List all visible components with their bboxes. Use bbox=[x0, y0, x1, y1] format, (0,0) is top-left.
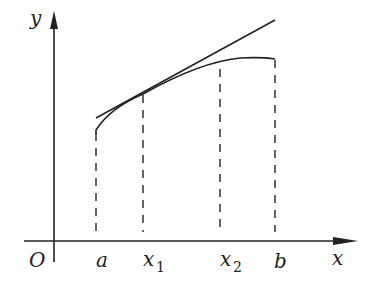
x-axis-label: x bbox=[332, 246, 343, 270]
origin-label: O bbox=[29, 248, 45, 272]
y-axis-arrow-icon bbox=[50, 11, 58, 29]
tick-label-x1-subscript: 1 bbox=[156, 259, 165, 275]
tick-label-a: a bbox=[96, 248, 108, 272]
x-axis-arrow-icon bbox=[333, 237, 358, 245]
tangent-line bbox=[96, 20, 275, 118]
tick-label-x2: x bbox=[220, 247, 231, 271]
tick-label-x2-subscript: 2 bbox=[233, 259, 242, 275]
tick-label-b: b bbox=[274, 249, 287, 273]
tick-label-x1: x bbox=[143, 247, 154, 271]
diagram-canvas: y O a x 1 x 2 b x bbox=[0, 0, 376, 284]
y-axis-label: y bbox=[29, 6, 42, 30]
